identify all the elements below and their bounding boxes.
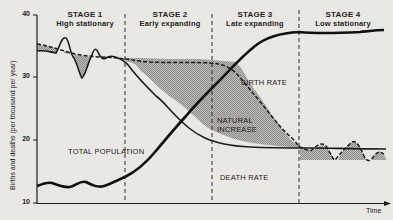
birth-rate-label: BIRTH RATE [241,78,287,87]
stage-4-description: Low stationary [305,19,381,28]
y-tick-40: 40 [10,10,30,17]
stage-3-name: STAGE 3 [218,10,292,19]
stage-dividers [125,10,299,203]
y-axis-label: Births and deaths (per thousand per year… [9,60,16,190]
stage-1-name: STAGE 1 [50,10,120,19]
stage-4-header: STAGE 4 Low stationary [305,10,381,28]
stage-1-header: STAGE 1 High stationary [50,10,120,28]
stage-2-name: STAGE 2 [133,10,207,19]
stage-3-description: Late expanding [218,19,292,28]
stage-4-name: STAGE 4 [305,10,381,19]
x-axis-label: Time [366,207,381,214]
demographic-transition-chart: STAGE 1 High stationary STAGE 2 Early ex… [0,0,393,220]
stage-2-description: Early expanding [133,19,207,28]
y-tick-10: 10 [10,198,30,205]
chart-canvas [0,0,393,220]
total-population-label: TOTAL POPULATION [68,147,144,156]
stage-3-header: STAGE 3 Late expanding [218,10,292,28]
death-rate-label: DEATH RATE [220,173,268,182]
stage-2-header: STAGE 2 Early expanding [133,10,207,28]
natural-increase-label: NATURAL INCREASE [217,116,265,134]
stage-1-description: High stationary [50,19,120,28]
